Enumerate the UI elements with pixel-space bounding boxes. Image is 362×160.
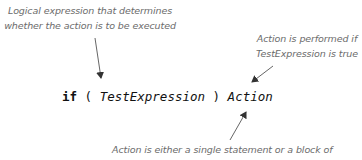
condition-arrow-icon xyxy=(95,38,101,78)
action-definition-arrow-icon xyxy=(230,112,246,140)
action-performed-arrow-icon xyxy=(252,66,273,82)
